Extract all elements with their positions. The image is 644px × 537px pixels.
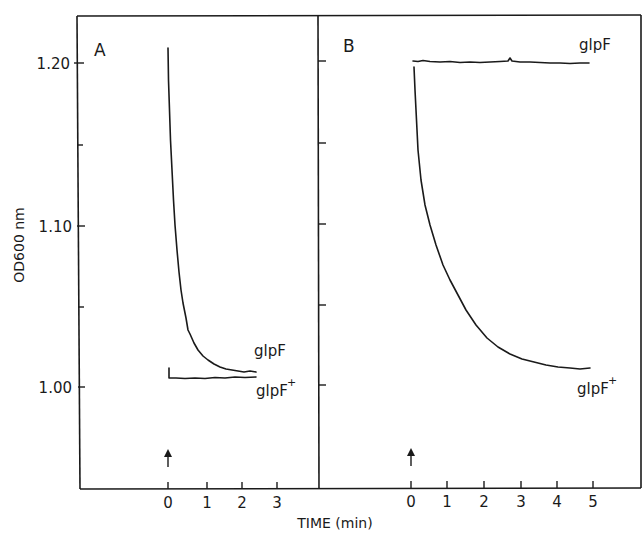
x-tick-label: 1 bbox=[442, 493, 452, 511]
panel-b-glpF-trace bbox=[413, 58, 589, 64]
panel-b-letter: B bbox=[343, 36, 355, 56]
x-tick-label: 3 bbox=[272, 494, 282, 512]
panel-a-glpF-label: glpF bbox=[254, 342, 286, 360]
x-tick-label: 5 bbox=[588, 493, 598, 511]
plot-frame bbox=[77, 15, 641, 489]
y-axis-title: OD600 nm bbox=[11, 207, 27, 282]
x-tick-label: 0 bbox=[406, 493, 416, 511]
y-tick-label: 1.10 bbox=[39, 218, 72, 236]
series-label-text: glpF bbox=[256, 382, 288, 400]
x-axis bbox=[80, 488, 641, 489]
panel-a-glpF-plus-trace bbox=[169, 368, 256, 379]
x-ticks-panel-b bbox=[411, 481, 593, 488]
x-tick-label: 4 bbox=[552, 493, 562, 511]
series-label-text: glpF bbox=[577, 380, 609, 398]
x-tick-labels-panel-a: 0 1 2 3 bbox=[163, 494, 282, 512]
y-tick-label: 1.20 bbox=[37, 55, 70, 73]
x-tick-label: 2 bbox=[237, 494, 247, 512]
x-tick-labels-panel-b: 0 1 2 3 4 5 bbox=[406, 493, 598, 511]
y-axis bbox=[77, 16, 80, 489]
y-tick-labels: 1.20 1.10 1.00 bbox=[37, 55, 72, 397]
panel-a-glpF-trace bbox=[168, 48, 256, 372]
x-tick-label: 0 bbox=[163, 494, 173, 512]
panel-a-letter: A bbox=[94, 40, 106, 60]
chart-canvas: 1.20 1.10 1.00 OD600 nm 0 1 2 3 bbox=[0, 0, 644, 537]
panel-b-glpF-label: glpF bbox=[579, 36, 611, 54]
arrow-up-icon bbox=[164, 449, 172, 467]
series-label-superscript: + bbox=[287, 376, 296, 389]
x-axis-title: TIME (min) bbox=[296, 515, 372, 531]
x-tick-label: 3 bbox=[516, 493, 526, 511]
panel-divider bbox=[318, 16, 319, 489]
panel-a-glpF-plus-label: glpF + bbox=[256, 376, 296, 400]
panel-b-glpF-plus-label: glpF + bbox=[577, 374, 617, 398]
y-tick-label: 1.00 bbox=[39, 379, 72, 397]
x-tick-label: 1 bbox=[202, 494, 212, 512]
series-label-superscript: + bbox=[608, 374, 617, 387]
frame-top bbox=[77, 15, 641, 16]
x-tick-label: 2 bbox=[479, 493, 489, 511]
panel-b-glpF-plus-trace bbox=[414, 67, 590, 369]
arrow-up-icon bbox=[407, 448, 415, 466]
figure: 1.20 1.10 1.00 OD600 nm 0 1 2 3 bbox=[0, 0, 644, 537]
